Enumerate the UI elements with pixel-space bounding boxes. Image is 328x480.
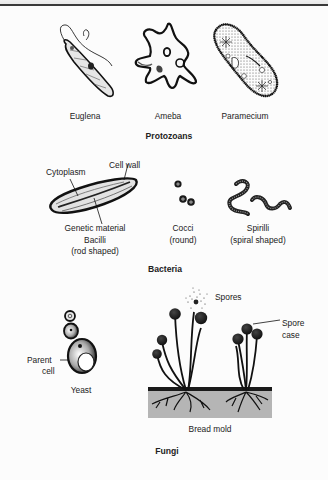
cocci-label: Cocci bbox=[173, 223, 194, 233]
bread-mold-label: Bread mold bbox=[189, 424, 232, 434]
parent-cell-label-line1: Parent bbox=[27, 355, 52, 365]
spores-burst bbox=[186, 288, 208, 309]
ameba-icon bbox=[136, 24, 196, 88]
bacteria-title: Bacteria bbox=[148, 264, 182, 274]
spore-case-label-line1: Spore bbox=[282, 318, 304, 328]
cocci-description: (round) bbox=[170, 235, 197, 245]
cytoplasm-label: Cytoplasm bbox=[46, 167, 86, 177]
bacilli-description: (rod shaped) bbox=[71, 246, 119, 256]
spirilli-description: (spiral shaped) bbox=[230, 235, 285, 245]
spirilli-label: Spirilli bbox=[247, 223, 269, 233]
fungi-title: Fungi bbox=[155, 446, 178, 456]
cell-wall-label: Cell wall bbox=[109, 160, 140, 170]
yeast-icon bbox=[60, 311, 96, 373]
ameba-label: Ameba bbox=[155, 111, 182, 121]
bacilli-label: Bacilli bbox=[84, 235, 106, 245]
spirilli-icon bbox=[229, 181, 290, 214]
cocci-icon bbox=[174, 180, 194, 205]
paramecium-label: Paramecium bbox=[221, 111, 268, 121]
parent-cell-label-line2: cell bbox=[42, 366, 55, 376]
genetic-material-label: Genetic material bbox=[65, 223, 126, 233]
spores-label: Spores bbox=[215, 292, 242, 302]
euglena-label: Euglena bbox=[70, 111, 101, 121]
euglena-icon bbox=[60, 25, 113, 96]
yeast-label: Yeast bbox=[71, 385, 92, 395]
bread-mold-icon bbox=[148, 288, 280, 419]
spore-case-label-line2: case bbox=[282, 330, 300, 340]
protozoans-title: Protozoans bbox=[146, 131, 193, 141]
paramecium-icon bbox=[214, 24, 277, 96]
